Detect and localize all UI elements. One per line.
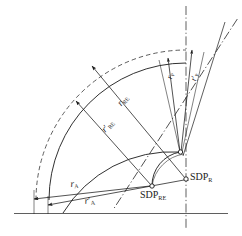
- r-p-subscript: P: [170, 73, 175, 77]
- axis-group: [14, 1, 237, 228]
- sdp-upper-marker[interactable]: [178, 150, 182, 154]
- sdp-re-base: SDP: [140, 189, 158, 200]
- r-re-prime-arrow: [76, 101, 151, 185]
- sdp-r-subscript: R: [208, 176, 212, 183]
- r-p-prime-helper-line: [182, 52, 204, 152]
- r-a-prime-label: r′A: [84, 196, 95, 208]
- sdp-r-base: SDP: [190, 171, 208, 182]
- sector-edge-line: [183, 22, 225, 156]
- r-p-prime-label: r′P: [190, 73, 201, 82]
- r-a-prime-subscript: A: [90, 199, 95, 206]
- diagram-vector-layer: [0, 0, 242, 236]
- sdp-re-subscript: RE: [158, 194, 166, 201]
- r-a-subscript: A: [74, 183, 79, 189]
- sdp-r-marker[interactable]: [184, 177, 188, 181]
- inner-small-arc: [152, 152, 180, 186]
- sdp-re-label: SDPRE: [140, 190, 166, 201]
- sdp-r-label: SDPR: [190, 172, 213, 183]
- r-a-label: rA: [70, 179, 79, 190]
- r-p-prime-arrow: [181, 50, 192, 152]
- sdp-re-marker[interactable]: [150, 184, 154, 188]
- figure-canvas: SDPR SDPRE rRE r′RE rA r′A rP r′P: [0, 0, 242, 236]
